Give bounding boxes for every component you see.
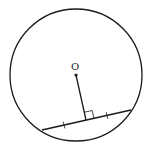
perpendicular-segment (76, 75, 86, 120)
circle-chord-diagram: O (0, 0, 147, 155)
center-point (74, 73, 77, 76)
diagram-canvas (0, 0, 147, 155)
center-label: O (71, 62, 79, 72)
